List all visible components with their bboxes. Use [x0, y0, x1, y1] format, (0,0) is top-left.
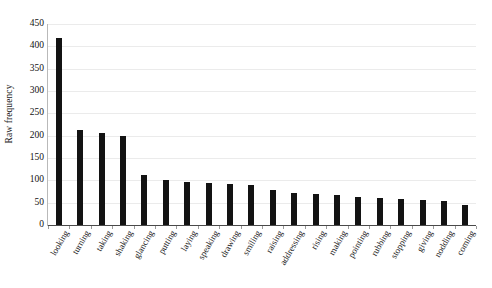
- x-axis-tick-making: making: [327, 229, 348, 257]
- y-axis-tick-350: 350: [16, 64, 44, 74]
- x-axis-tick-turning: turning: [71, 229, 92, 256]
- x-axis-tick-rising: rising: [309, 229, 327, 251]
- y-axis-tick-400: 400: [16, 42, 44, 52]
- bar-taking: [99, 133, 105, 225]
- y-axis-tick-300: 300: [16, 86, 44, 96]
- bar-giving: [420, 200, 426, 225]
- bar-speaking: [206, 183, 212, 225]
- x-axis-tick-speaking: speaking: [197, 229, 221, 261]
- bar-coming: [462, 205, 468, 225]
- x-axis-tick-labels: lookingturningtakingshakingglancingputti…: [48, 229, 492, 288]
- x-axis-tick-raising: raising: [264, 229, 284, 255]
- x-axis-tick-pointing: pointing: [347, 229, 370, 259]
- bar-rubbing: [377, 198, 383, 225]
- y-axis-tick-250: 250: [16, 109, 44, 119]
- bar-nodding: [441, 201, 447, 225]
- y-axis-tick-200: 200: [16, 131, 44, 141]
- x-axis-tick-looking: looking: [49, 229, 71, 257]
- plot-area: [48, 24, 476, 225]
- bar-turning: [77, 130, 83, 225]
- x-axis-tick-giving: giving: [415, 229, 434, 253]
- bar-addressing: [291, 193, 297, 225]
- x-axis-tick-coming: coming: [456, 229, 477, 257]
- y-axis-tick-100: 100: [16, 176, 44, 186]
- bar-pointing: [355, 197, 361, 225]
- x-axis-tick-taking: taking: [94, 229, 113, 253]
- bar-smiling: [248, 185, 254, 225]
- bar-raising: [270, 190, 276, 225]
- bar-rising: [313, 194, 319, 225]
- x-axis-tick-nodding: nodding: [433, 229, 456, 259]
- y-axis-line: [47, 24, 48, 226]
- x-axis-tick-glancing: glancing: [133, 229, 156, 260]
- x-axis-tick-drawing: drawing: [219, 229, 242, 259]
- bar-glancing: [141, 175, 147, 225]
- y-axis-tick-150: 150: [16, 153, 44, 163]
- x-axis-tick-putting: putting: [157, 229, 178, 256]
- bar-putting: [163, 180, 169, 225]
- x-axis-tick-smiling: smiling: [242, 229, 263, 257]
- bar-shaking: [120, 136, 126, 225]
- bar-drawing: [227, 184, 233, 225]
- x-axis-tick-laying: laying: [180, 229, 199, 253]
- bar-making: [334, 195, 340, 225]
- bars-layer: [48, 24, 476, 225]
- y-axis-tick-450: 450: [16, 19, 44, 29]
- bar-chart: Raw frequency 45040035030025020015010050…: [0, 0, 492, 288]
- bar-stopping: [398, 199, 404, 225]
- y-axis-tick-labels: 450400350300250200150100500: [16, 0, 44, 232]
- bar-looking: [56, 38, 62, 225]
- y-axis-tick-0: 0: [16, 220, 44, 230]
- y-axis-title-label: Raw frequency: [4, 84, 14, 143]
- y-axis-tick-50: 50: [16, 198, 44, 208]
- x-axis-tick-stopping: stopping: [390, 229, 413, 260]
- bar-laying: [184, 182, 190, 225]
